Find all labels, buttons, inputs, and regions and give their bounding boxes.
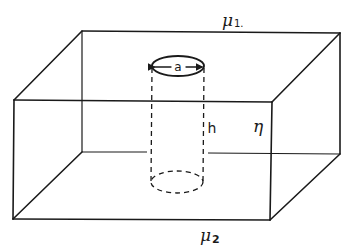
front-face: [13, 100, 272, 220]
bottom-left-diagonal-edge: [13, 152, 82, 219]
front-left-vertical-edge: [13, 100, 14, 219]
slab-cylinder-diagram: a h η μ 1. μ 2: [0, 0, 348, 249]
top-right-diagonal-edge: [272, 33, 340, 102]
cylinder-diameter-label: a: [174, 60, 181, 74]
back-bottom-edge-right: [208, 153, 340, 154]
slab-viscosity-label: η: [253, 116, 264, 136]
front-right-vertical-edge: [270, 102, 272, 220]
bottom-medium-label: μ 2: [200, 225, 220, 246]
back-top-edge: [82, 31, 340, 33]
top-medium-subscript: 1.: [234, 18, 244, 29]
cylinder: [151, 56, 204, 193]
bottom-medium-subscript: 2: [212, 233, 220, 246]
top-medium-symbol: μ: [222, 10, 233, 30]
cylinder-height-label: h: [208, 120, 217, 136]
cylinder-right-side: [203, 68, 204, 182]
top-left-diagonal-edge: [14, 31, 82, 100]
front-top-edge: [14, 100, 272, 102]
cylinder-left-side: [151, 68, 152, 182]
bottom-right-diagonal-edge: [270, 154, 340, 220]
top-medium-label: μ 1.: [222, 10, 244, 30]
bottom-medium-symbol: μ: [200, 225, 211, 245]
front-bottom-edge: [13, 219, 270, 220]
bottom-face: [13, 152, 340, 220]
cylinder-bottom-ellipse: [151, 171, 203, 193]
